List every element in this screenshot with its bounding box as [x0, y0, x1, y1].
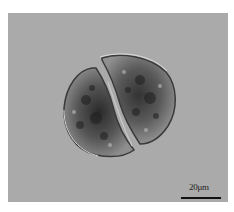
- scale-bar: [181, 197, 221, 199]
- cell-illustration: [8, 13, 228, 202]
- scale-bar-label: 20μm: [189, 182, 209, 192]
- micrograph-panel: [8, 13, 228, 202]
